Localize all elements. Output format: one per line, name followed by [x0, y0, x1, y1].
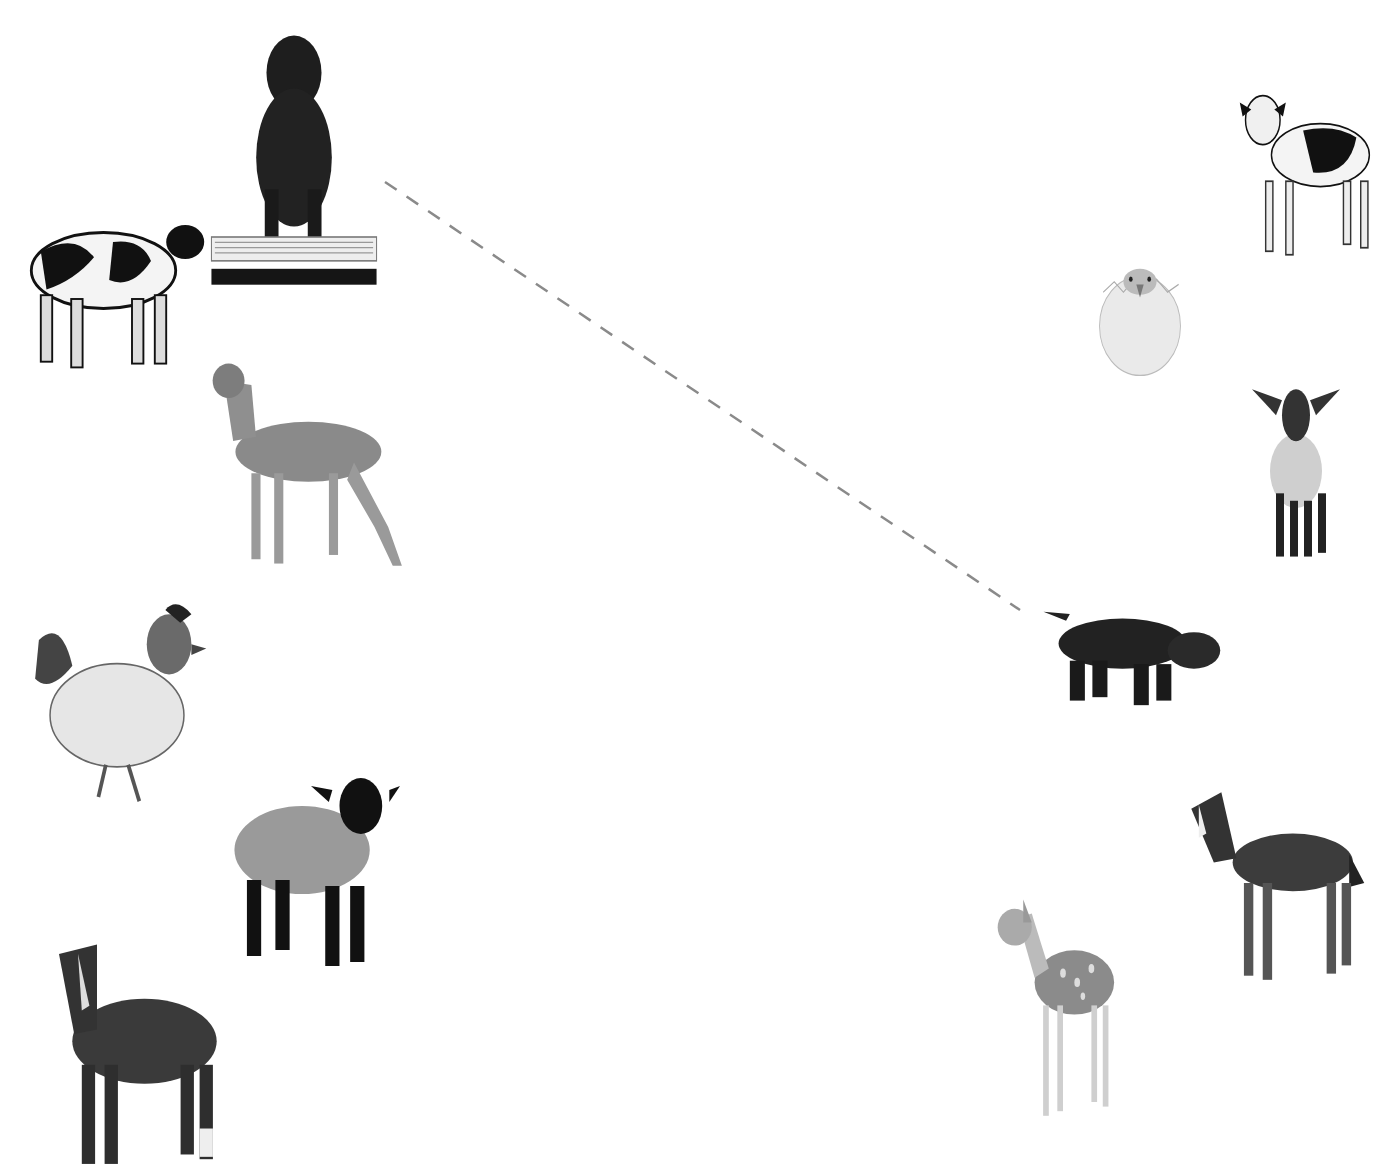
adult-dog-image[interactable]: dog [208, 25, 380, 290]
sheep-label: sheep [222, 975, 400, 988]
lamb-icon [1246, 378, 1346, 564]
chick-icon [1094, 248, 1186, 378]
adult-chicken-image[interactable]: chicken [24, 597, 210, 812]
fawn-icon [992, 895, 1134, 1125]
dog-label: dog [208, 295, 380, 308]
calf-label: calf [1234, 265, 1378, 278]
cow-icon [18, 185, 208, 375]
horse-icon [40, 935, 230, 1171]
calf-icon [1234, 85, 1378, 260]
baby-chick-image[interactable]: chick [1094, 248, 1186, 378]
deer-icon [183, 355, 411, 570]
puppy-label: puppy [1036, 717, 1224, 730]
baby-calf-image[interactable]: calf [1234, 85, 1378, 260]
baby-puppy-image[interactable]: puppy [1036, 598, 1224, 712]
puppy-icon [1036, 598, 1224, 712]
match-line-dog-puppy [385, 182, 1020, 610]
dog-icon [208, 25, 380, 290]
adult-deer-image[interactable]: deer [183, 355, 411, 570]
adult-horse-image[interactable]: horse [40, 935, 230, 1171]
cow-label: cow [18, 380, 208, 393]
chick-label: chick [1094, 383, 1186, 396]
lamb-label: lamb [1246, 569, 1346, 582]
baby-foal-image[interactable]: foal [1180, 780, 1368, 986]
foal-icon [1180, 780, 1368, 986]
chicken-icon [24, 597, 210, 812]
foal-label: foal [1180, 991, 1368, 1004]
adult-cow-image[interactable]: cow [18, 185, 208, 375]
chicken-label: chicken [24, 817, 210, 830]
adult-sheep-image[interactable]: sheep [222, 770, 400, 970]
sheep-icon [222, 770, 400, 970]
deer-label: deer [183, 575, 411, 588]
baby-fawn-image[interactable]: fawn [992, 895, 1134, 1125]
baby-lamb-image[interactable]: lamb [1246, 378, 1346, 564]
fawn-label: fawn [992, 1130, 1134, 1143]
